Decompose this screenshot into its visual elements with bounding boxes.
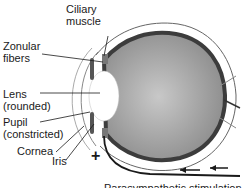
label-iris: Iris [52,155,67,167]
ciliary-line-1: Ciliary [66,3,101,15]
label-cornea: Cornea [17,145,53,157]
label-ciliary-muscle: Ciliary muscle [66,3,101,27]
pupil-line-1: Pupil [3,116,64,128]
pupil-line-2: (constricted) [3,128,64,140]
label-zonular-fibers: Zonular fibers [3,40,40,64]
arrows [180,165,228,173]
lens-line-1: Lens [3,88,51,100]
zonular-line-2: fibers [3,52,40,64]
eyeball [104,33,225,160]
ciliary-line-2: muscle [66,15,101,27]
label-lens: Lens (rounded) [3,88,51,112]
lens-line-2: (rounded) [3,100,51,112]
caption: Parasympathetic stimulation [104,182,242,188]
zonular-line-1: Zonular [3,40,40,52]
plus-symbol: + [91,150,100,162]
label-pupil: Pupil (constricted) [3,116,64,140]
